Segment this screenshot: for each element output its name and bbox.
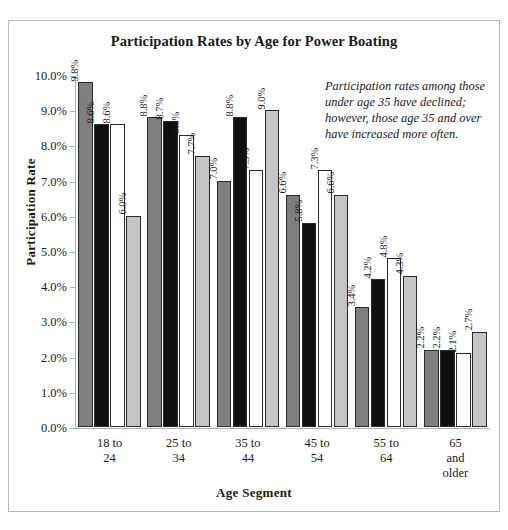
bar-group: 6.6%5.8%7.3%6.6% [283,75,352,427]
x-axis-category-label-line: 64 [352,451,421,466]
y-axis-tick-label: 4.0% [41,280,67,295]
chart-frame: Participation Rates by Age for Power Boa… [8,20,500,512]
bar[interactable]: 2.1% [456,353,471,427]
x-axis-title: Age Segment [9,485,499,501]
y-axis-tick-label: 0.0% [41,421,67,436]
x-axis-category-label-line: and [421,451,490,466]
chart-title: Participation Rates by Age for Power Boa… [9,33,499,50]
bar[interactable]: 7.3% [318,170,333,427]
bar[interactable]: 8.6% [94,124,109,427]
y-axis-tick-label: 9.0% [41,104,67,119]
bar-value-label: 4.8% [378,235,389,257]
x-axis-category-label: 55 to64 [352,436,421,466]
bar-group: 2.2%2.2%2.1%2.7% [421,75,490,427]
x-axis-category-label: 35 to44 [213,436,282,466]
bar-value-label: 4.3% [394,253,405,275]
bar-value-label: 2.7% [464,309,475,331]
bar-value-label: 6.6% [277,172,288,194]
bar[interactable]: 7.0% [217,181,232,427]
bar[interactable]: 8.6% [110,124,125,427]
y-axis-tick-label: 5.0% [41,245,67,260]
bar-value-label: 9.8% [70,59,81,81]
bar-value-label: 2.2% [432,327,443,349]
bar-group: 8.8%8.7%8.3%7.7% [144,75,213,427]
y-axis-title: Participation Rate [23,127,39,297]
y-axis-tick-label: 6.0% [41,209,67,224]
bar-value-label: 4.2% [362,256,373,278]
bar[interactable]: 8.3% [179,135,194,427]
bar-value-label: 7.3% [309,147,320,169]
bar-value-label: 7.0% [208,158,219,180]
bar[interactable]: 5.8% [302,223,317,427]
x-axis-category-label-line: 24 [75,451,144,466]
bar-value-label: 2.1% [448,330,459,352]
bar-value-label: 8.8% [139,94,150,116]
bar-value-label: 3.4% [346,284,357,306]
bar-value-label: 7.3% [240,147,251,169]
x-axis-category-label-line: 25 to [144,436,213,451]
bar[interactable]: 4.3% [403,276,418,427]
y-axis-tick [70,428,75,429]
bar-value-label: 8.8% [224,94,235,116]
y-axis-tick-label: 1.0% [41,385,67,400]
bar-value-label: 7.7% [187,133,198,155]
bar-value-label: 8.6% [102,101,113,123]
bar[interactable]: 8.8% [147,117,162,427]
bar[interactable]: 6.0% [126,216,141,427]
bar[interactable]: 7.3% [249,170,264,427]
x-axis-category-label-line: 45 to [283,436,352,451]
x-axis-category-label: 45 to54 [283,436,352,466]
y-axis-tick-label: 2.0% [41,350,67,365]
bar-value-label: 5.8% [293,200,304,222]
bar[interactable]: 3.4% [355,307,370,427]
bar[interactable]: 8.7% [163,121,178,427]
bar-value-label: 8.3% [171,112,182,134]
bar[interactable]: 2.7% [472,332,487,427]
bar[interactable]: 9.0% [265,110,280,427]
x-axis-category-label-line: 55 to [352,436,421,451]
bar[interactable]: 4.2% [371,279,386,427]
x-axis-category-label: 18 to24 [75,436,144,466]
x-axis-line [75,428,490,429]
x-axis-category-label-line: 54 [283,451,352,466]
plot-area: 0.0%1.0%2.0%3.0%4.0%5.0%6.0%7.0%8.0%9.0%… [75,76,490,428]
y-axis-tick-label: 8.0% [41,139,67,154]
bar[interactable]: 2.2% [424,350,439,427]
bar[interactable]: 7.7% [195,156,210,427]
x-axis-category-label-line: 34 [144,451,213,466]
y-axis-tick-label: 7.0% [41,174,67,189]
bar-value-label: 6.0% [118,193,129,215]
x-axis-category-label: 25 to34 [144,436,213,466]
bar[interactable]: 9.8% [78,82,93,427]
x-axis-category-label-line: 44 [213,451,282,466]
y-axis-tick-label: 10.0% [35,69,67,84]
bar-value-label: 8.7% [155,98,166,120]
bar-value-label: 2.2% [416,327,427,349]
bar-value-label: 6.6% [325,172,336,194]
bar[interactable]: 6.6% [286,195,301,427]
y-axis-tick-label: 3.0% [41,315,67,330]
bar[interactable]: 4.8% [387,258,402,427]
x-axis-category-label-line: 35 to [213,436,282,451]
x-axis-category-label: 65andolder [421,436,490,480]
bar-value-label: 9.0% [256,87,267,109]
bar[interactable]: 6.6% [334,195,349,427]
bar-value-label: 8.6% [86,101,97,123]
bar-group: 3.4%4.2%4.8%4.3% [352,75,421,427]
x-axis-category-label-line: 18 to [75,436,144,451]
bar[interactable]: 2.2% [440,350,455,427]
x-axis-category-label-line: 65 [421,436,490,451]
bar-group: 9.8%8.6%8.6%6.0% [75,75,144,427]
bar-group: 7.0%8.8%7.3%9.0% [213,75,282,427]
x-axis-category-label-line: older [421,466,490,481]
